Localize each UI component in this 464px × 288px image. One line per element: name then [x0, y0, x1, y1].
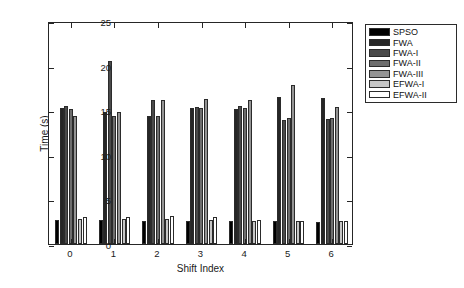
x-axis-title: Shift Index	[48, 263, 353, 274]
bar	[296, 221, 300, 244]
x-tick-label: 6	[329, 248, 334, 259]
x-axis-tick-top	[202, 23, 203, 28]
legend-item[interactable]: EFWA-I	[369, 79, 454, 89]
y-axis-tick-right	[347, 157, 352, 158]
bar	[321, 98, 325, 244]
x-axis-tick	[289, 239, 290, 244]
bar-group	[136, 23, 180, 244]
y-axis-tick-right	[347, 68, 352, 69]
bar	[339, 221, 343, 244]
bar	[103, 112, 107, 244]
y-tick-label: 20	[51, 61, 111, 72]
y-tick-label: 5	[51, 195, 111, 206]
y-tick-label: 0	[51, 240, 111, 251]
bar-group	[93, 23, 137, 244]
bar	[186, 221, 190, 244]
bar	[165, 219, 169, 244]
bar	[243, 108, 247, 244]
bar	[170, 216, 174, 244]
bar	[73, 116, 77, 244]
bar	[300, 221, 304, 244]
legend-item[interactable]: FWA-I	[369, 48, 454, 58]
y-tick-label: 10	[51, 150, 111, 161]
legend-item[interactable]: FWA-II	[369, 58, 454, 68]
x-tick-label: 2	[154, 248, 159, 259]
bar	[147, 116, 151, 244]
legend-label: SPSO	[393, 27, 418, 37]
bar	[122, 219, 126, 244]
bar-group	[223, 23, 267, 244]
bar	[199, 108, 203, 244]
bar-group	[267, 23, 311, 244]
y-tick-label: 25	[51, 17, 111, 28]
bar	[213, 217, 217, 244]
bar	[60, 108, 64, 244]
x-tick-label: 4	[241, 248, 246, 259]
bar	[112, 116, 116, 244]
bar	[69, 109, 73, 244]
legend-label: EFWA-II	[393, 90, 427, 100]
bar	[209, 220, 213, 244]
legend-label: EFWA-I	[393, 79, 424, 89]
legend-label: FWA-III	[393, 69, 423, 79]
legend: SPSOFWAFWA-IFWA-IIFWA-IIIEFWA-IEFWA-II	[365, 24, 457, 103]
y-axis-tick-right	[347, 23, 352, 24]
bar	[204, 99, 208, 244]
bar	[151, 100, 155, 245]
bar	[229, 221, 233, 244]
bar-group	[180, 23, 224, 244]
x-axis-tick	[332, 239, 333, 244]
bar	[257, 220, 261, 244]
x-tick-label: 1	[111, 248, 116, 259]
x-tick-label: 0	[67, 248, 72, 259]
x-axis-tick	[202, 239, 203, 244]
x-tick-label: 3	[198, 248, 203, 259]
legend-item[interactable]: FWA	[369, 37, 454, 47]
bar	[161, 100, 165, 244]
legend-swatch-icon	[369, 70, 390, 78]
bar	[156, 116, 160, 244]
plot-area	[48, 22, 353, 245]
bar	[287, 118, 291, 244]
bar	[277, 97, 281, 244]
x-axis-tick	[114, 239, 115, 244]
legend-swatch-icon	[369, 28, 390, 36]
bar	[273, 221, 277, 244]
legend-item[interactable]: SPSO	[369, 27, 454, 37]
x-axis-tick-top	[245, 23, 246, 28]
bar	[252, 221, 256, 244]
y-axis-tick-right	[347, 201, 352, 202]
legend-swatch-icon	[369, 80, 390, 88]
bar	[142, 221, 146, 244]
bar	[344, 221, 348, 244]
bar	[326, 119, 330, 244]
bar	[117, 112, 121, 244]
legend-swatch-icon	[369, 49, 390, 57]
bar	[316, 222, 320, 244]
bar	[190, 108, 194, 244]
x-axis-tick-top	[114, 23, 115, 28]
figure-canvas: Time (s) 0510152025 0123456 Shift Index …	[0, 0, 464, 288]
bar	[291, 85, 295, 244]
legend-label: FWA	[393, 38, 413, 48]
legend-item[interactable]: EFWA-II	[369, 89, 454, 99]
y-tick-label: 15	[51, 106, 111, 117]
y-axis-tick-right	[347, 246, 352, 247]
legend-item[interactable]: FWA-III	[369, 69, 454, 79]
x-axis-tick-top	[158, 23, 159, 28]
x-axis-tick-top	[289, 23, 290, 28]
legend-swatch-icon	[369, 91, 390, 99]
bar	[234, 109, 238, 244]
x-tick-label: 5	[285, 248, 290, 259]
legend-swatch-icon	[369, 39, 390, 47]
bar-group	[49, 23, 93, 244]
bar	[64, 106, 68, 244]
legend-label: FWA-II	[393, 58, 421, 68]
y-axis-tick-right	[347, 112, 352, 113]
x-axis-tick	[158, 239, 159, 244]
bar	[248, 100, 252, 244]
bar	[195, 107, 199, 244]
bar	[282, 120, 286, 244]
bar	[335, 107, 339, 244]
x-axis-tick-top	[332, 23, 333, 28]
